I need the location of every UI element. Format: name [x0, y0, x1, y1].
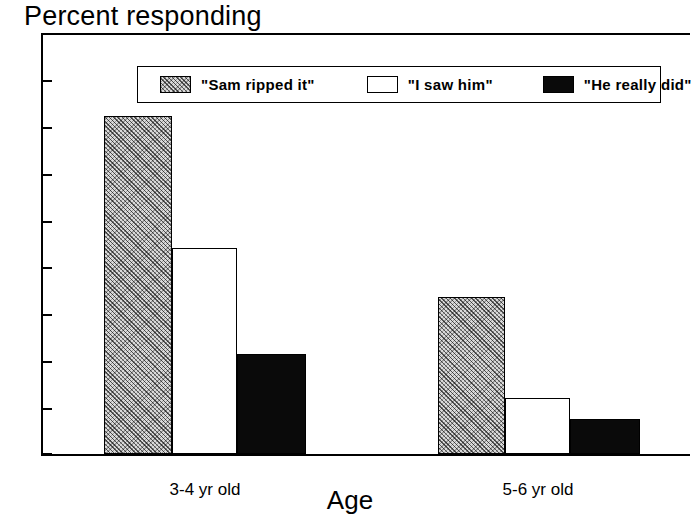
chart-legend: "Sam ripped it" "I saw him" "He really d…	[137, 66, 661, 103]
y-tick-mark	[43, 80, 52, 82]
bar-group1-series1	[505, 398, 570, 455]
plot-frame-top	[41, 33, 690, 35]
legend-swatch-solid-icon	[543, 76, 574, 93]
y-tick-mark	[43, 314, 52, 316]
bar-group1-series2	[570, 419, 640, 455]
y-tick-mark	[43, 453, 52, 455]
x-axis-title: Age	[0, 485, 700, 515]
bar-group1-series0	[438, 297, 505, 455]
legend-label-series-2: "He really did"	[584, 77, 692, 93]
bar-group0-series1	[172, 248, 237, 455]
bar-group0-series0	[104, 116, 172, 454]
y-axis-line	[41, 33, 43, 456]
y-tick-mark	[43, 127, 52, 129]
legend-label-series-1: "I saw him"	[408, 77, 493, 93]
legend-entry-sam-ripped-it: "Sam ripped it"	[160, 76, 315, 93]
y-tick-mark	[43, 221, 52, 223]
y-tick-mark	[43, 267, 52, 269]
y-tick-mark	[43, 408, 52, 410]
y-tick-mark	[43, 361, 52, 363]
legend-entry-i-saw-him: "I saw him"	[367, 76, 493, 93]
legend-label-series-0: "Sam ripped it"	[201, 77, 315, 93]
chart-title: Percent responding	[24, 0, 262, 32]
bar-chart-figure: Percent responding 90 80 70 60 50 40 30 …	[0, 0, 700, 526]
legend-swatch-open-icon	[367, 76, 398, 93]
y-tick-mark	[43, 33, 52, 35]
legend-entry-he-really-did: "He really did"	[543, 76, 692, 93]
bar-group0-series2	[237, 354, 306, 454]
legend-swatch-hatched-icon	[160, 76, 191, 93]
y-tick-mark	[43, 174, 52, 176]
